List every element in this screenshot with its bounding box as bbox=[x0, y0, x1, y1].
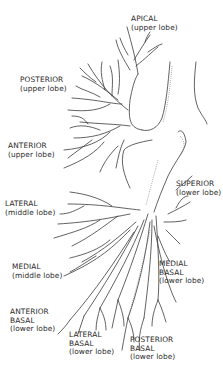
label-line: (upper lobe) bbox=[8, 151, 55, 160]
label-anterior-basal-lower-lobe: ANTERIOR BASAL (lower lobe) bbox=[10, 308, 55, 334]
label-apical-upper-lobe: APICAL (upper lobe) bbox=[131, 15, 178, 32]
intermediate-cartilage bbox=[146, 160, 158, 205]
lower-bronchus-cartilage bbox=[180, 136, 184, 156]
anterior-branches bbox=[64, 116, 130, 172]
main-bronchus-wall-upper bbox=[142, 62, 170, 131]
posterior-branches bbox=[68, 60, 128, 111]
trachea-right-wall bbox=[194, 62, 207, 124]
label-line: (upper lobe) bbox=[131, 24, 178, 33]
label-medial-middle-lobe: MEDIAL (middle lobe) bbox=[12, 263, 62, 280]
label-line: (lower lobe) bbox=[159, 277, 204, 286]
label-superior-lower-lobe: SUPERIOR (lower lobe) bbox=[176, 180, 221, 197]
label-line: (lower lobe) bbox=[69, 348, 114, 357]
label-posterior-upper-lobe: POSTERIOR (upper lobe) bbox=[20, 76, 67, 93]
intermediate-bronchus-left bbox=[122, 140, 152, 188]
superior-lower-branches bbox=[164, 196, 190, 244]
apical-branches bbox=[116, 27, 162, 74]
label-posterior-basal-lower-lobe: POSTERIOR BASAL (lower lobe) bbox=[130, 336, 175, 362]
label-line: (lower lobe) bbox=[10, 325, 55, 334]
bronchial-tree-diagram: APICAL (upper lobe) POSTERIOR (upper lob… bbox=[0, 0, 223, 368]
label-line: (upper lobe) bbox=[20, 85, 67, 94]
label-anterior-upper-lobe: ANTERIOR (upper lobe) bbox=[8, 142, 55, 159]
label-lateral-middle-lobe: LATERAL (middle lobe) bbox=[5, 200, 55, 217]
label-medial-basal-lower-lobe: MEDIAL BASAL (lower lobe) bbox=[159, 260, 204, 286]
label-line: (middle lobe) bbox=[12, 272, 62, 281]
label-line: (lower lobe) bbox=[130, 353, 175, 362]
lateral-middle-branches bbox=[54, 192, 140, 246]
upper-lobe-loop bbox=[129, 74, 142, 130]
main-bronchus-cartilage bbox=[163, 66, 172, 122]
label-line: (lower lobe) bbox=[176, 189, 221, 198]
label-lateral-basal-lower-lobe: LATERAL BASAL (lower lobe) bbox=[69, 331, 114, 357]
label-line: (middle lobe) bbox=[5, 209, 55, 218]
